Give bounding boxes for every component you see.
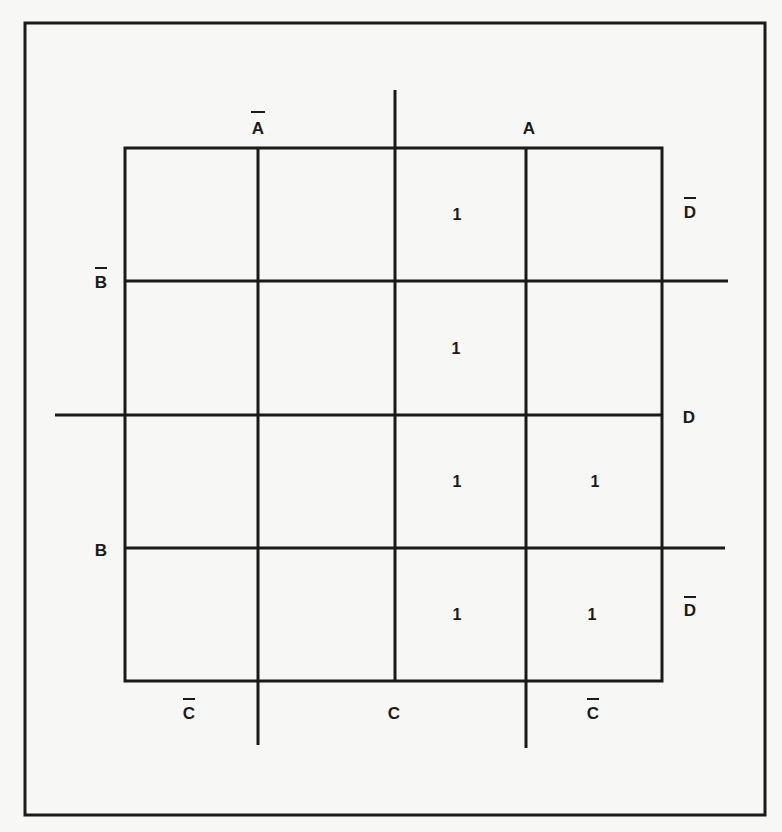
- cell-r1-c2: 1: [452, 340, 461, 357]
- cell-r2-c3: 1: [591, 473, 600, 490]
- label-not-b: B: [95, 273, 107, 292]
- label-not-a: A: [252, 119, 264, 138]
- label-not-d-bottom: D: [684, 601, 696, 620]
- cell-r0-c2: 1: [453, 206, 462, 223]
- label-not-d-top: D: [684, 203, 696, 222]
- label-c: C: [388, 704, 400, 723]
- cell-r3-c2: 1: [453, 606, 462, 623]
- karnaugh-map: A A B B D D D C C C 1 1 1 1 1 1: [0, 0, 782, 832]
- label-d: D: [683, 408, 695, 427]
- label-a: A: [523, 119, 535, 138]
- label-b: B: [95, 541, 107, 560]
- label-not-c-left: C: [183, 704, 195, 723]
- cell-r2-c2: 1: [453, 473, 462, 490]
- label-not-c-right: C: [587, 704, 599, 723]
- cell-r3-c3: 1: [588, 606, 597, 623]
